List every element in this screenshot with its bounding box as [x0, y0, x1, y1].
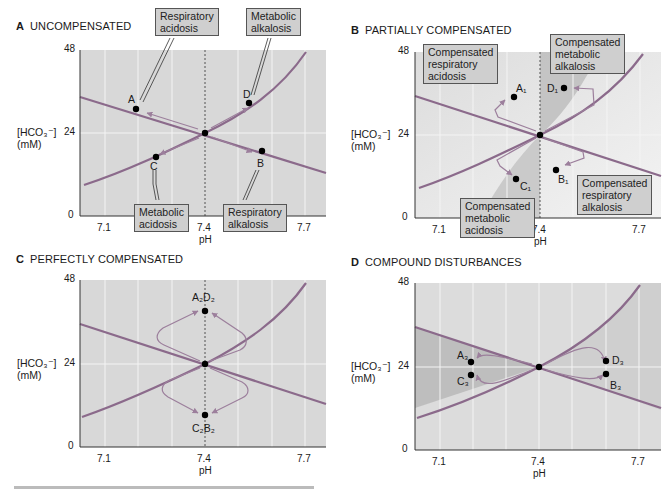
ylabel: [HCO₃⁻](mM) [351, 360, 390, 384]
xlabel: pH [534, 236, 547, 247]
ytick-0: 0 [402, 443, 408, 454]
ylabel: [HCO₃⁻](mM) [17, 357, 56, 381]
point-label-a3: A₃ [457, 349, 468, 361]
box-respiratory-acidosis: Respiratoryacidosis [155, 8, 219, 36]
ytick-24: 24 [64, 126, 75, 137]
point-label-b3: B₃ [610, 379, 621, 391]
panel-a-plot [80, 38, 326, 216]
ytick-48: 48 [398, 45, 409, 56]
ylabel: [HCO₃⁻](mM) [351, 128, 390, 152]
panel-a-title: AUNCOMPENSATED [16, 20, 131, 32]
ytick-0: 0 [68, 209, 74, 220]
box-respiratory-alkalosis: Respiratoryalkalosis [223, 204, 287, 232]
xtick-7.1: 7.1 [97, 453, 111, 464]
ytick-48: 48 [398, 276, 409, 287]
ytick-24: 24 [398, 360, 409, 371]
figure-caption-cropped [14, 482, 314, 489]
ytick-48: 48 [64, 43, 75, 54]
ytick-24: 24 [398, 128, 409, 139]
point-label-d1: D₁ [547, 82, 558, 94]
box-metabolic-acidosis: Metabolicacidosis [134, 204, 189, 232]
panel-b-title: BPARTIALLY COMPENSATED [351, 24, 512, 36]
xtick-7.4: 7.4 [531, 456, 545, 467]
box-compensated-metabolic-alkalosis: Compensatedmetabolicalkalosis [550, 34, 625, 74]
panel-d-plot [415, 283, 661, 450]
point-label-b: B [257, 157, 264, 169]
box-compensated-respiratory-alkalosis: Compensatedrespiratoryalkalosis [577, 175, 652, 215]
xtick-7.7: 7.7 [631, 456, 645, 467]
panel-d-title: DCOMPOUND DISTURBANCES [351, 256, 522, 268]
point-label-a1: A₁ [516, 82, 527, 94]
xtick-7.4: 7.4 [197, 453, 211, 464]
point-label-a2d2: A₂D₂ [192, 291, 215, 303]
point-label-a: A [128, 93, 135, 105]
point-label-c3: C₃ [457, 375, 469, 387]
point-label-c1: C₁ [520, 180, 531, 192]
point-label-d3: D₃ [612, 354, 624, 366]
panel-c-title: CPERFECTLY COMPENSATED [16, 253, 183, 265]
point-label-d: D [243, 88, 251, 100]
xlabel: pH [199, 465, 212, 476]
ytick-48: 48 [64, 273, 75, 284]
xtick-7.7: 7.7 [297, 222, 311, 233]
xtick-7.4: 7.4 [197, 222, 211, 233]
xtick-7.1: 7.1 [432, 224, 446, 235]
point-label-c: C [150, 160, 158, 172]
point-label-b1: B₁ [558, 173, 569, 185]
ytick-24: 24 [64, 357, 75, 368]
ytick-0: 0 [402, 211, 408, 222]
ylabel: [HCO₃⁻](mM) [17, 126, 56, 150]
xtick-7.7: 7.7 [632, 224, 646, 235]
xtick-7.1: 7.1 [97, 222, 111, 233]
xtick-7.7: 7.7 [297, 453, 311, 464]
box-compensated-metabolic-acidosis: Compensatedmetabolicacidosis [460, 198, 535, 238]
ytick-0: 0 [68, 440, 74, 451]
box-metabolic-alkalosis: Metabolicalkalosis [246, 8, 301, 36]
xlabel: pH [199, 234, 212, 245]
box-compensated-respiratory-acidosis: Compensatedrespiratoryacidosis [423, 44, 498, 84]
xtick-7.1: 7.1 [432, 456, 446, 467]
point-label-c2b2: C₂B₂ [192, 422, 215, 434]
xlabel: pH [533, 468, 546, 479]
